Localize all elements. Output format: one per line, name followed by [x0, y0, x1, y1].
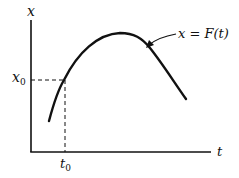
x0-label-subscript: 0 [20, 77, 26, 87]
curve-f-of-t [49, 33, 186, 121]
t0-label-subscript: 0 [65, 163, 71, 173]
horizontal-axis-label: t [217, 145, 222, 158]
t0-label: t0 [60, 157, 71, 173]
annotation-arrow-line [149, 34, 176, 45]
vertical-axis-label: x [27, 4, 35, 18]
x0-label: x0 [12, 70, 26, 87]
curve-equation-label: x = F(t) [178, 27, 229, 40]
function-graph-diagram: x t x0 t0 x = F(t) [0, 0, 239, 178]
x0-label-main: x [12, 69, 20, 85]
